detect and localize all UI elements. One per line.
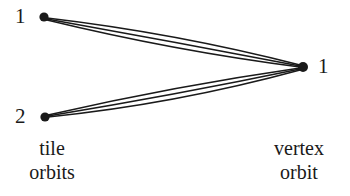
edge-tile2-vertex1-a [48, 68, 300, 115]
caption-vertex-orbit-line2: orbit [248, 160, 350, 184]
edge-tile2-vertex1-b [48, 69, 300, 116]
caption-vertex-orbit: vertex orbit [248, 136, 350, 184]
node-tile-orbit-2[interactable] [40, 112, 49, 121]
node-tile-orbit-1[interactable] [39, 12, 48, 21]
node-label-tile-orbit-1: 1 [15, 6, 26, 27]
edge-tile1-vertex1-b [47, 19, 300, 66]
figure-canvas: 1 2 1 tile orbits vertex orbit [0, 0, 350, 196]
edge-tile1-vertex1-c [47, 20, 300, 67]
edge-group-tile-2 [48, 68, 300, 117]
node-label-vertex-orbit-1: 1 [318, 56, 329, 77]
caption-vertex-orbit-line1: vertex [248, 136, 350, 160]
caption-tile-orbits: tile orbits [0, 136, 104, 184]
node-vertex-orbit-1[interactable] [298, 62, 308, 72]
caption-tile-orbits-line2: orbits [0, 160, 104, 184]
node-label-tile-orbit-2: 2 [15, 106, 26, 127]
caption-tile-orbits-line1: tile [0, 136, 104, 160]
edge-group-tile-1 [47, 18, 300, 67]
